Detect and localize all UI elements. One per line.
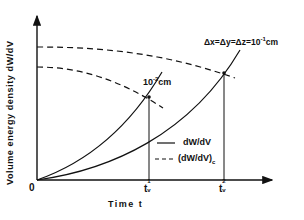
diagram-canvas <box>0 0 304 220</box>
y-axis-label: Volume energy density dW/dV <box>5 40 15 185</box>
origin-label: 0 <box>29 182 35 193</box>
x-axis-label: Time t <box>108 199 143 209</box>
legend-solid-label: dW/dV <box>183 137 211 147</box>
annotation-fine-mesh: 10-2cm <box>143 76 171 87</box>
tick-t2: t2v <box>219 183 222 194</box>
tick-t1: t1v <box>144 183 147 194</box>
energy-curve-fine <box>37 72 162 180</box>
critical-curve-fine <box>37 67 163 108</box>
critical-curve-coarse <box>37 47 235 78</box>
legend-dashed-label: (dW/dV)c <box>178 153 215 165</box>
annotation-coarse-mesh: Δx=Δy=Δz=10-1cm <box>204 36 278 47</box>
